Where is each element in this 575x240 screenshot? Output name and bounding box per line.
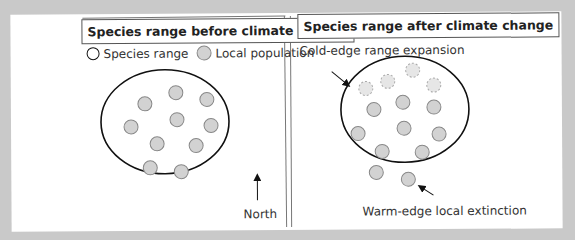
new-population-dot bbox=[359, 81, 373, 95]
local-population-dot bbox=[397, 121, 411, 135]
local-population-dot bbox=[124, 120, 138, 134]
local-population-dot bbox=[204, 118, 218, 132]
warm-edge-extinction-label: Warm-edge local extinction bbox=[363, 204, 527, 219]
local-population-dot bbox=[170, 113, 184, 127]
local-population-dot bbox=[150, 137, 164, 151]
local-populations-before bbox=[124, 85, 219, 179]
local-population-dot bbox=[367, 102, 381, 116]
extinct-population-dot bbox=[401, 172, 415, 186]
local-population-dot bbox=[143, 161, 157, 175]
local-population-dot bbox=[138, 97, 152, 111]
local-population-dot bbox=[415, 145, 429, 159]
extinct-population-dot bbox=[369, 165, 383, 179]
legend: Species range Local population bbox=[87, 45, 315, 61]
figure-sheet: Species range before climate change Spec… bbox=[10, 11, 562, 231]
new-population-dot bbox=[406, 63, 420, 77]
new-population-dot bbox=[427, 78, 441, 92]
local-population-dot bbox=[375, 144, 389, 158]
legend-species-range-label: Species range bbox=[104, 46, 189, 61]
local-population-dot bbox=[427, 100, 441, 114]
warm-edge-arrow-icon bbox=[419, 186, 433, 195]
right-panel-top-border bbox=[290, 11, 488, 12]
local-population-dot bbox=[174, 165, 188, 179]
local-population-dot bbox=[169, 86, 183, 100]
local-population-dot bbox=[189, 139, 203, 153]
local-population-legend-icon bbox=[196, 45, 211, 60]
local-population-dot bbox=[200, 92, 214, 106]
local-population-dot bbox=[351, 127, 365, 141]
local-population-dot bbox=[432, 127, 446, 141]
cold-edge-arrow-icon bbox=[332, 72, 349, 86]
species-range-legend-icon bbox=[87, 47, 100, 60]
new-population-dot bbox=[381, 74, 395, 88]
cold-edge-expansion-label: Cold-edge range expansion bbox=[300, 43, 465, 58]
local-populations-after bbox=[351, 95, 446, 160]
local-population-dot bbox=[396, 95, 410, 109]
right-panel-title: Species range after climate change bbox=[297, 12, 559, 39]
extinct-populations bbox=[369, 165, 415, 186]
new-populations bbox=[359, 63, 441, 96]
north-label: North bbox=[244, 207, 278, 221]
